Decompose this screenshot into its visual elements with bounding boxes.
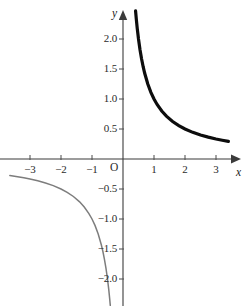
x-tick-label: 3 bbox=[206, 164, 226, 175]
y-tick-label: −1.5 bbox=[77, 243, 117, 254]
function-graph-figure: −3−2−11232.01.51.00.5−0.5−1.0−1.5−2.0 y … bbox=[0, 0, 248, 306]
curve-branch-positive bbox=[136, 11, 229, 142]
x-axis-arrowhead bbox=[231, 155, 241, 164]
y-axis-arrowhead bbox=[119, 10, 127, 20]
x-tick-label: 1 bbox=[144, 164, 164, 175]
axes-group bbox=[0, 10, 241, 306]
y-axis-label: y bbox=[112, 8, 117, 20]
origin-label: O bbox=[110, 162, 118, 174]
curve-branch-negative bbox=[10, 175, 110, 305]
x-tick-label: −1 bbox=[82, 164, 102, 175]
y-tick-label: −2.0 bbox=[77, 273, 117, 284]
curves-group bbox=[10, 11, 229, 306]
y-tick-label: 2.0 bbox=[77, 33, 117, 44]
y-tick-label: −1.0 bbox=[77, 213, 117, 224]
x-tick-label: −2 bbox=[51, 164, 71, 175]
plot-canvas bbox=[0, 0, 248, 306]
x-tick-label: −3 bbox=[20, 164, 40, 175]
x-axis-label: x bbox=[236, 167, 241, 179]
y-tick-label: 1.0 bbox=[77, 93, 117, 104]
x-tick-label: 2 bbox=[175, 164, 195, 175]
y-tick-label: 0.5 bbox=[77, 123, 117, 134]
y-tick-label: −0.5 bbox=[77, 183, 117, 194]
y-tick-label: 1.5 bbox=[77, 63, 117, 74]
